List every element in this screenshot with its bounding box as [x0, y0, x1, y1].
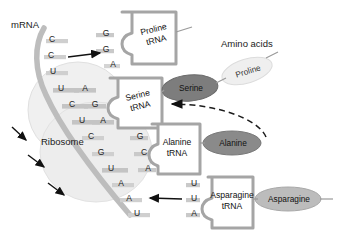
trna-box-asparagine	[202, 177, 253, 228]
trna-box-proline	[122, 12, 176, 64]
amino-acid-oval-asparagine	[255, 187, 321, 211]
trna-box-alanine	[149, 124, 200, 174]
amino-acid-oval-alanine	[203, 131, 261, 155]
amino-acid-oval-serine	[161, 73, 219, 104]
translation-diagram: mRNA Amino acids Ribosome C C U U C U C …	[0, 0, 339, 235]
codon-arrow-proline	[68, 53, 100, 57]
diagram-canvas	[0, 0, 339, 235]
codon-arrow-asparagine	[150, 198, 182, 199]
